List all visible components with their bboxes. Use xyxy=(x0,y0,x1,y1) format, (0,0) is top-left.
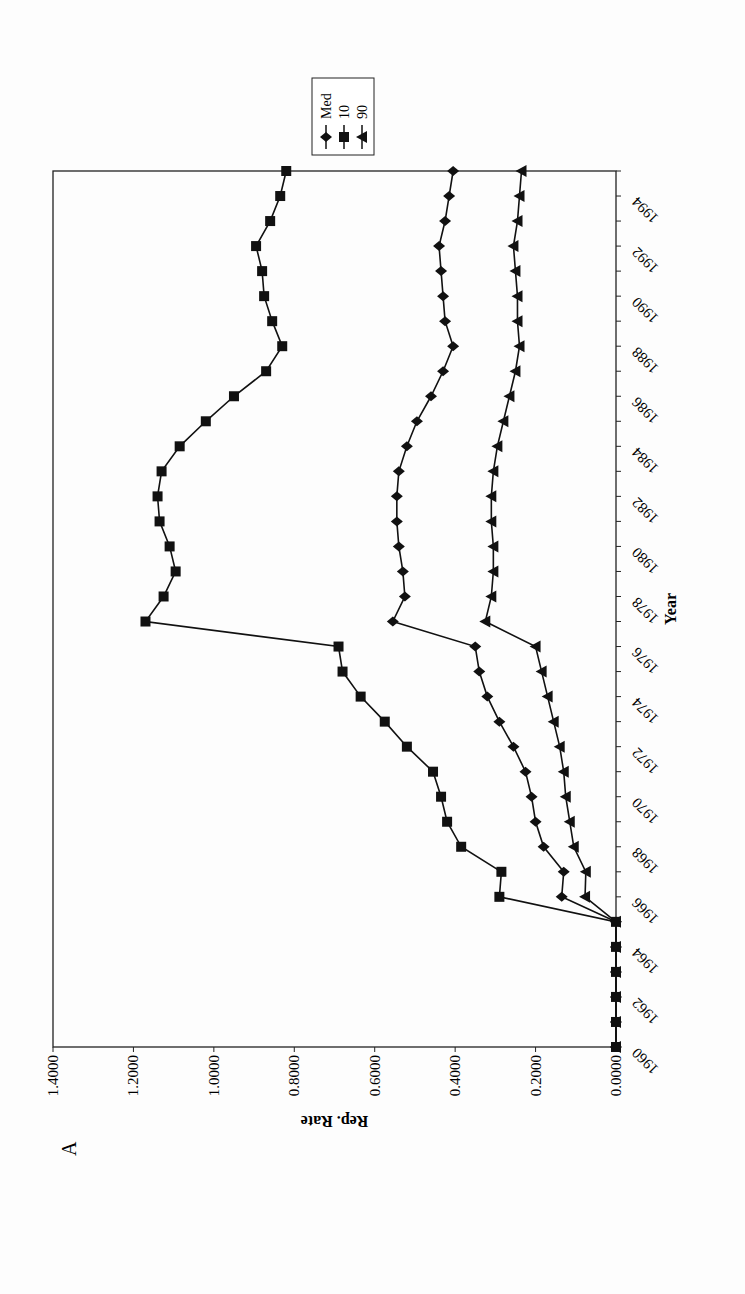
series-line-Med xyxy=(393,171,616,1047)
x-tick-label: 1960 xyxy=(629,1045,662,1078)
series-line-10 xyxy=(145,171,616,1047)
x-tick-label: 1988 xyxy=(629,344,662,377)
x-tick-label: 1972 xyxy=(629,745,662,778)
line-chart: 0.00000.20000.40000.60000.80001.00001.20… xyxy=(0,0,745,1294)
y-tick-label: 1.0000 xyxy=(206,1055,222,1096)
y-axis-title: Rep. Rate xyxy=(301,1112,369,1130)
x-tick-label: 1984 xyxy=(628,444,661,477)
x-tick-label: 1994 xyxy=(628,194,661,227)
plot-area xyxy=(53,171,616,1047)
x-tick-label: 1970 xyxy=(629,795,662,828)
x-tick-label: 1964 xyxy=(628,944,661,977)
panel-label: A xyxy=(58,1141,80,1156)
y-tick-label: 1.2000 xyxy=(125,1055,141,1096)
x-tick-label: 1986 xyxy=(628,394,661,427)
x-tick-label: 1992 xyxy=(629,244,662,277)
series-line-90 xyxy=(485,171,616,1047)
legend-label: 90 xyxy=(355,105,370,119)
x-tick-label: 1980 xyxy=(629,544,662,577)
x-axis-title: Year xyxy=(662,593,679,625)
x-tick-label: 1982 xyxy=(629,494,662,527)
x-tick-label: 1962 xyxy=(629,995,662,1028)
y-tick-label: 0.4000 xyxy=(447,1055,463,1096)
y-tick-label: 0.2000 xyxy=(528,1055,544,1096)
y-tick-label: 0.6000 xyxy=(367,1055,383,1096)
x-tick-label: 1968 xyxy=(629,845,662,878)
x-tick-label: 1990 xyxy=(629,294,662,327)
legend-label: Med xyxy=(319,93,334,119)
y-tick-label: 0.8000 xyxy=(286,1055,302,1096)
x-tick-label: 1976 xyxy=(628,644,661,677)
y-tick-label: 0.0000 xyxy=(608,1055,624,1096)
x-tick-label: 1974 xyxy=(628,694,661,727)
rotated-figure: 0.00000.20000.40000.60000.80001.00001.20… xyxy=(0,0,745,1294)
y-tick-label: 1.4000 xyxy=(45,1055,61,1096)
x-tick-label: 1966 xyxy=(628,894,661,927)
x-tick-label: 1978 xyxy=(629,594,662,627)
legend-label: 10 xyxy=(337,105,352,119)
